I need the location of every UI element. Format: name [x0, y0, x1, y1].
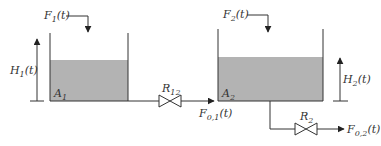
tank-2-inflow: F2(t) [222, 8, 268, 32]
valve-r12-label: R12 [161, 82, 180, 97]
outlet-pipe: R2 F0,2(t) [270, 101, 380, 138]
level-2-label: H2(t) [342, 73, 371, 88]
tank-1-level: H1(t) [9, 39, 44, 101]
tank-1: A1 [50, 33, 128, 102]
inflow-2-arrow [247, 15, 268, 32]
tank-1-inflow: F1(t) [43, 9, 88, 32]
valve-r2-icon [295, 123, 317, 135]
tank-2-level: H2(t) [333, 58, 371, 101]
level-1-label: H1(t) [9, 64, 38, 79]
flow-01-label: F0,1(t) [198, 107, 232, 122]
two-tank-diagram: A1 F1(t) H1(t) R12 F0,1(t) A2 F2(t) H2(t… [0, 0, 381, 146]
valve-r2-label: R2 [299, 110, 313, 125]
inflow-1-label: F1(t) [43, 9, 70, 24]
tank-2: A2 [218, 29, 323, 102]
connecting-pipe: R12 F0,1(t) [128, 82, 232, 122]
inflow-2-label: F2(t) [222, 8, 249, 23]
flow-02-label: F0,2(t) [346, 123, 380, 138]
